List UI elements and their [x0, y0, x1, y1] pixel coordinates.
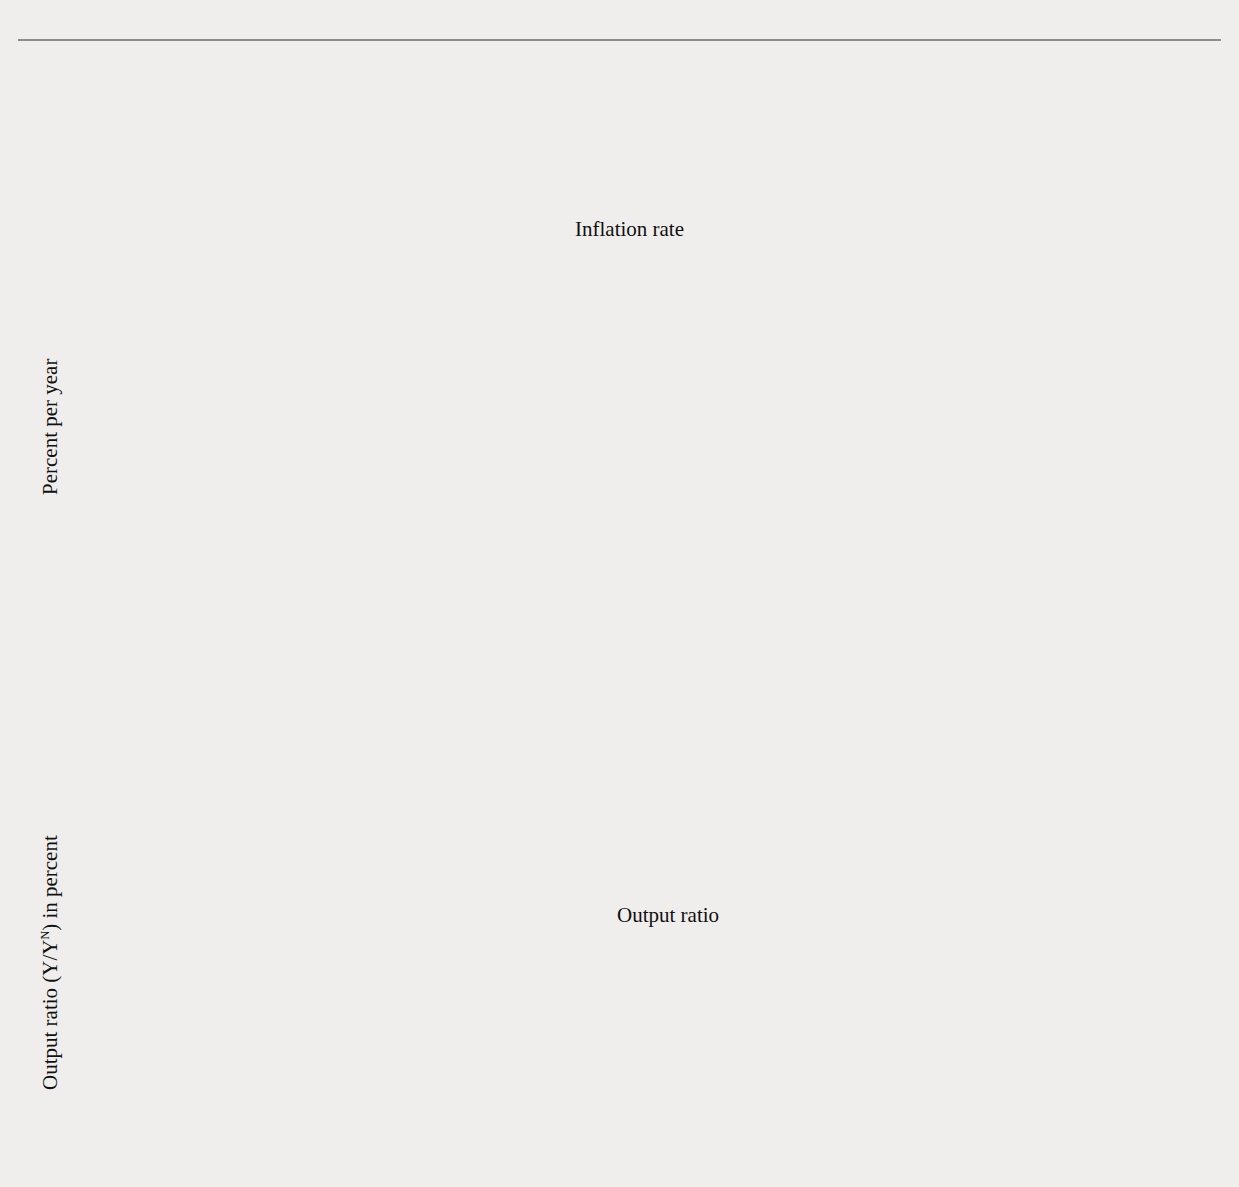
- output-ratio-series-annotation: Output ratio: [617, 903, 719, 928]
- output-ratio-plot-svg: [0, 615, 1239, 1175]
- inflation-series-annotation: Inflation rate: [575, 217, 684, 242]
- y-label-suffix: ) in percent: [38, 835, 62, 931]
- top-divider-rule: [18, 39, 1221, 41]
- inflation-y-axis-label: Percent per year: [38, 359, 63, 495]
- inflation-plot-svg: [0, 75, 1239, 610]
- inflation-panel: Percent per year Inflation rate: [0, 75, 1239, 610]
- output-ratio-panel: Output ratio (Y/YN) in percent Output ra…: [0, 615, 1239, 1175]
- y-label-superscript: N: [38, 931, 52, 940]
- figure-container: Percent per year Inflation rate Output r…: [0, 0, 1239, 1187]
- output-ratio-y-axis-label: Output ratio (Y/YN) in percent: [38, 835, 63, 1090]
- y-label-prefix: Output ratio (Y/Y: [38, 940, 62, 1090]
